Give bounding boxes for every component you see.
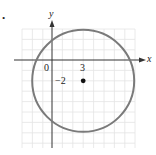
- grid: [22, 29, 135, 148]
- y-axis-label: y: [49, 9, 53, 19]
- problem-number-mark: .: [2, 8, 5, 21]
- x-axis-label: x: [147, 54, 151, 64]
- center-point: [81, 78, 86, 83]
- x-tick-label-3: 3: [80, 63, 85, 73]
- y-tick-label-neg2: −2: [55, 76, 66, 86]
- coordinate-plane: [0, 0, 156, 155]
- x-axis-arrow-icon: [139, 58, 146, 63]
- y-axis-arrow-icon: [50, 20, 55, 27]
- origin-label: 0: [44, 63, 49, 73]
